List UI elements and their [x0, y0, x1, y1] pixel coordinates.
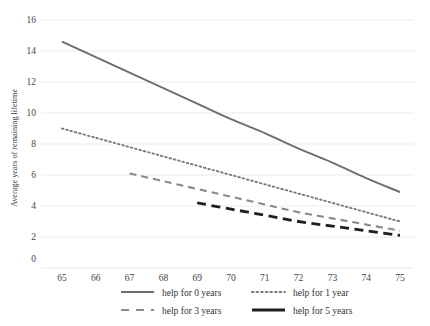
- x-tick-label: 70: [226, 273, 236, 283]
- line-chart: 246810121416 6566676869707172737475 0 Av…: [0, 0, 430, 326]
- y-tick-label: 16: [27, 15, 37, 25]
- y-axis-title: Average years of remaining lifetime: [10, 89, 19, 207]
- x-tick-label: 68: [159, 273, 169, 283]
- y-tick-label: 12: [27, 77, 37, 87]
- y-tick-label: 2: [31, 232, 36, 242]
- y-tick-label: 10: [27, 108, 37, 118]
- x-tick-label: 73: [328, 273, 338, 283]
- x-tick-label: 72: [294, 273, 304, 283]
- x-tick-label: 67: [125, 273, 135, 283]
- legend-label: help for 5 years: [293, 306, 353, 316]
- legend-label: help for 1 year: [293, 288, 349, 298]
- origin-tick-label: 0: [31, 254, 36, 264]
- y-tick-label: 8: [31, 139, 36, 149]
- chart-canvas: 246810121416 6566676869707172737475 0 Av…: [0, 0, 430, 326]
- x-tick-label: 69: [192, 273, 202, 283]
- legend-label: help for 3 years: [162, 306, 222, 316]
- x-tick-label: 71: [260, 273, 270, 283]
- x-tick-label: 74: [361, 273, 371, 283]
- y-tick-label: 4: [31, 201, 36, 211]
- x-tick-label: 66: [91, 273, 101, 283]
- legend-label: help for 0 years: [162, 288, 222, 298]
- y-tick-label: 6: [31, 170, 36, 180]
- x-tick-label: 75: [395, 273, 405, 283]
- x-tick-label: 65: [57, 273, 67, 283]
- y-tick-label: 14: [27, 46, 37, 56]
